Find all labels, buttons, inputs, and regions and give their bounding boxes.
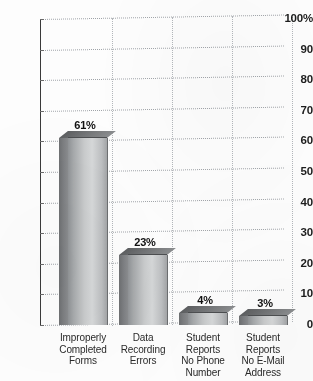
gridline-vertical bbox=[172, 17, 174, 325]
gridline-horizontal bbox=[41, 106, 284, 112]
y-axis-tick-mark bbox=[40, 80, 44, 81]
bar-front-face bbox=[128, 255, 168, 325]
gridline-vertical bbox=[232, 16, 234, 324]
x-axis-labels: ImproperlyCompletedFormsDataRecordingErr… bbox=[0, 332, 313, 381]
y-axis-tick-label: 100% bbox=[277, 13, 313, 24]
y-axis-tick-mark bbox=[40, 141, 44, 142]
y-axis-tick-label: 70 bbox=[277, 105, 313, 116]
x-axis-category-label-line: No E-Mail bbox=[227, 355, 299, 367]
y-axis-tick-mark bbox=[40, 203, 44, 204]
bar[interactable] bbox=[119, 255, 167, 325]
y-axis-tick-mark bbox=[40, 294, 44, 295]
y-axis-tick-mark bbox=[40, 325, 44, 326]
y-axis-tick-label: 80 bbox=[277, 74, 313, 85]
bar[interactable] bbox=[59, 138, 107, 325]
y-axis-tick-label: 30 bbox=[277, 227, 313, 238]
gridline-horizontal bbox=[41, 76, 284, 82]
bar-top-edge bbox=[128, 254, 167, 255]
bar-front-face bbox=[188, 313, 228, 325]
y-axis-tick-mark bbox=[40, 111, 44, 112]
y-axis-tick-label: 0 bbox=[277, 319, 313, 330]
y-axis-tick-mark bbox=[40, 19, 44, 20]
y-axis-tick-label: 40 bbox=[277, 197, 313, 208]
y-axis-tick-label: 50 bbox=[277, 166, 313, 177]
gridline-horizontal bbox=[41, 45, 284, 51]
bar-chart: 61%23%4%3% 100%9080706050403020100 Impro… bbox=[0, 0, 313, 381]
y-axis-tick-label: 60 bbox=[277, 135, 313, 146]
y-axis-tick-mark bbox=[40, 50, 44, 51]
bar-side-face bbox=[179, 313, 188, 325]
x-axis-category-label-line: Address bbox=[227, 367, 299, 379]
y-axis-tick-mark bbox=[40, 172, 44, 173]
bar-side-face bbox=[239, 316, 248, 325]
plot-area: 61%23%4%3% bbox=[41, 19, 284, 325]
y-axis-tick-label: 90 bbox=[277, 44, 313, 55]
bar-value-label: 61% bbox=[61, 119, 109, 131]
bar-value-label: 23% bbox=[121, 236, 169, 248]
bar-side-face bbox=[119, 255, 128, 325]
bar-front-face bbox=[68, 138, 108, 325]
bar-side-face bbox=[59, 138, 68, 325]
bar-value-label: 4% bbox=[181, 294, 229, 306]
bar-top-edge bbox=[68, 137, 107, 138]
y-axis-tick-mark bbox=[40, 233, 44, 234]
y-axis-tick-label: 20 bbox=[277, 258, 313, 269]
x-axis-category-label-line: Student bbox=[227, 332, 299, 344]
bar-top-edge bbox=[188, 312, 227, 313]
bar-top-edge bbox=[248, 315, 287, 316]
x-axis-category-label: StudentReportsNo E-MailAddress bbox=[227, 332, 299, 378]
bar[interactable] bbox=[179, 313, 227, 325]
gridline-vertical bbox=[112, 18, 114, 326]
y-axis-tick-label: 10 bbox=[277, 288, 313, 299]
gridline-horizontal bbox=[41, 15, 284, 21]
y-axis-tick-mark bbox=[40, 264, 44, 265]
x-axis-category-label-line: Reports bbox=[227, 344, 299, 356]
